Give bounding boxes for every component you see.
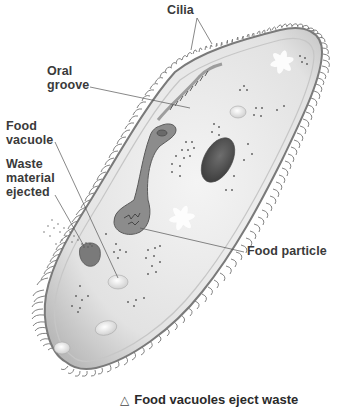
label-cilia: Cilia xyxy=(167,3,194,17)
label-food-particle: Food particle xyxy=(247,244,327,258)
label-oral-groove: Oral groove xyxy=(47,64,89,92)
triangle-marker-icon: △ xyxy=(120,393,129,407)
figure-caption: △Food vacuoles eject waste xyxy=(120,392,298,407)
caption-text: Food vacuoles eject waste xyxy=(134,392,298,407)
label-waste-material: Waste material ejected xyxy=(6,157,55,199)
food-vacuole xyxy=(108,275,128,289)
label-food-vacuole: Food vacuole xyxy=(6,119,53,147)
